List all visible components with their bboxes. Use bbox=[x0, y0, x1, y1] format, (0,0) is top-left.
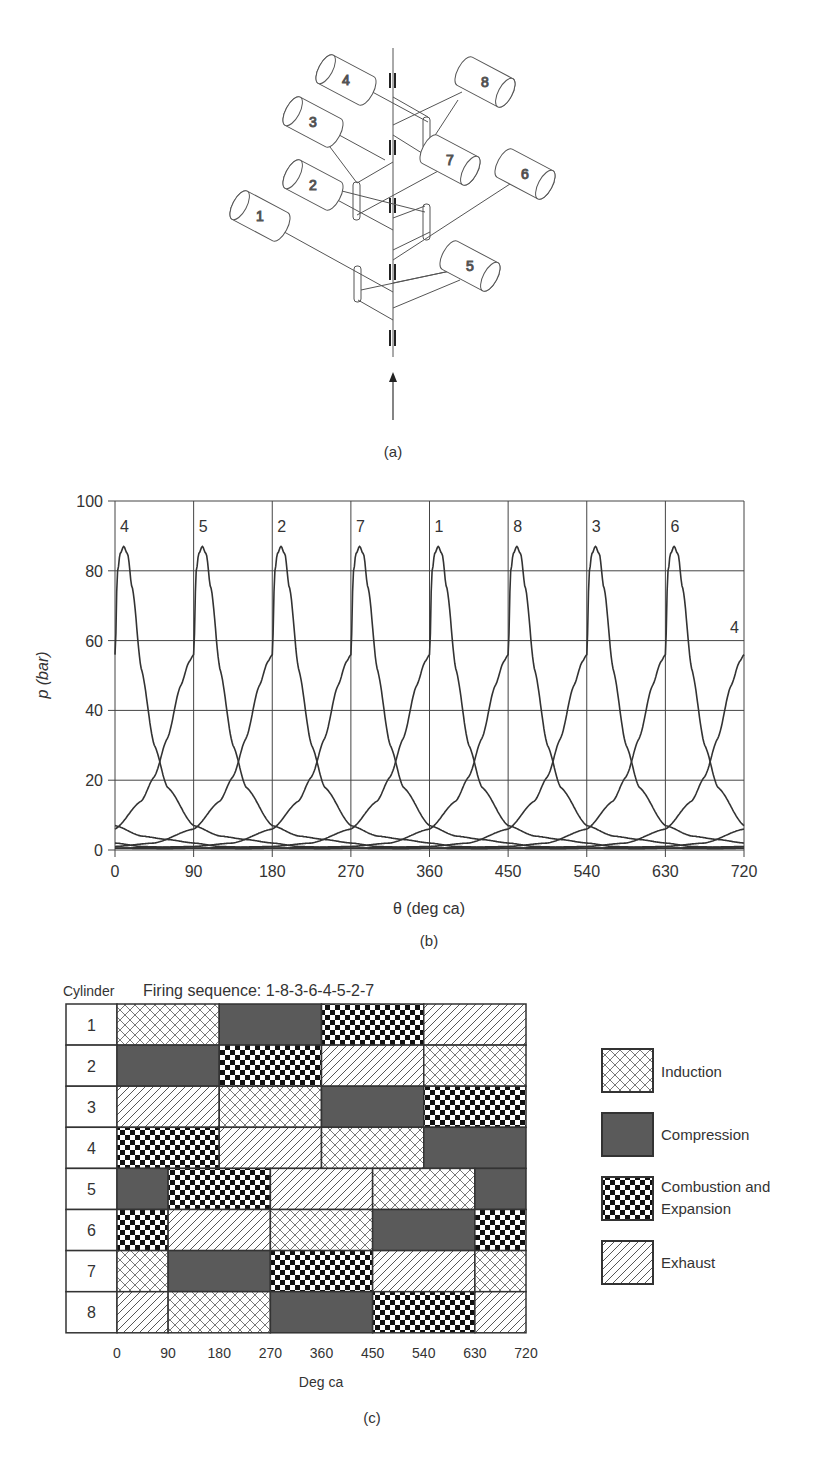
stroke-segment-combustion bbox=[219, 1045, 321, 1086]
cylinder-2: 2 bbox=[279, 157, 347, 213]
cylinder-7: 7 bbox=[416, 132, 484, 188]
legend-label: Induction bbox=[661, 1063, 722, 1080]
x-tick-label: 360 bbox=[416, 863, 443, 880]
table-row: 6 bbox=[66, 1210, 526, 1251]
x-tick-label: 540 bbox=[573, 863, 600, 880]
cylinder-column-header: Cylinder bbox=[63, 983, 115, 999]
table-row: 7 bbox=[66, 1251, 526, 1292]
cylinder-number: 2 bbox=[87, 1058, 96, 1075]
cylinder-number: 6 bbox=[521, 166, 529, 182]
legend-item-induction: Induction bbox=[602, 1049, 722, 1092]
peak-label: 3 bbox=[592, 518, 601, 535]
x-tick-label: 180 bbox=[208, 1345, 232, 1361]
x-tick-label: 90 bbox=[160, 1345, 176, 1361]
x-tick-label: 450 bbox=[495, 863, 522, 880]
stroke-segment-combustion bbox=[117, 1210, 168, 1251]
arrow-head-icon bbox=[389, 372, 397, 382]
stroke-segment-exhaust bbox=[168, 1210, 270, 1251]
cylinder-number: 3 bbox=[87, 1099, 96, 1116]
cylinder-6: 6 bbox=[491, 146, 559, 202]
cylinder-number: 2 bbox=[309, 177, 317, 193]
peak-label: 7 bbox=[356, 518, 365, 535]
x-tick-label: 540 bbox=[412, 1345, 436, 1361]
table-row: 5 bbox=[66, 1168, 526, 1209]
cylinder-number: 1 bbox=[87, 1017, 96, 1034]
cylinder-number: 1 bbox=[256, 208, 264, 224]
crankshaft-diagram: 12345678 bbox=[226, 48, 559, 420]
table-x-ticks: 090180270360450540630720 bbox=[113, 1345, 538, 1361]
stroke-segment-exhaust bbox=[475, 1292, 526, 1333]
stroke-segment-combustion bbox=[373, 1292, 475, 1333]
y-tick-label: 20 bbox=[85, 772, 103, 789]
figure: 12345678 (a) 020406080100 09018027036045… bbox=[0, 0, 832, 1459]
stroke-segment-combustion bbox=[424, 1086, 526, 1127]
x-axis-ticks: 090180270360450540630720 bbox=[111, 863, 758, 880]
cylinder-4: 4 bbox=[312, 52, 380, 108]
legend-item-combustion: Combustion and Expansion bbox=[602, 1177, 770, 1220]
stroke-segment-compression bbox=[322, 1086, 424, 1127]
table-row: 4 bbox=[66, 1127, 526, 1168]
x-tick-label: 630 bbox=[652, 863, 679, 880]
stroke-segment-compression bbox=[168, 1251, 270, 1292]
drive-arrow bbox=[389, 372, 397, 420]
legend-label: Compression bbox=[661, 1126, 749, 1143]
panel-c-label: (c) bbox=[363, 1409, 381, 1426]
cylinder-number: 3 bbox=[309, 114, 317, 130]
stroke-segment-induction bbox=[219, 1086, 321, 1127]
cylinder-number: 5 bbox=[466, 258, 474, 274]
stroke-segment-induction bbox=[424, 1045, 526, 1086]
x-axis-label: θ (deg ca) bbox=[393, 900, 465, 917]
peak-label: 4 bbox=[120, 518, 129, 535]
cylinder-number: 7 bbox=[446, 152, 454, 168]
x-tick-label: 720 bbox=[514, 1345, 538, 1361]
peak-label: 2 bbox=[277, 518, 286, 535]
chart-grid bbox=[108, 501, 744, 857]
x-tick-label: 180 bbox=[259, 863, 286, 880]
legend-label: Expansion bbox=[661, 1200, 731, 1217]
cylinder-number: 8 bbox=[481, 74, 489, 90]
stroke-segment-induction bbox=[117, 1004, 219, 1045]
stroke-segment-compression bbox=[219, 1004, 321, 1045]
compression-swatch-icon bbox=[602, 1113, 653, 1156]
peak-label: 5 bbox=[199, 518, 208, 535]
y-tick-label: 60 bbox=[85, 633, 103, 650]
peak-label: 6 bbox=[670, 518, 679, 535]
cylinder-number: 7 bbox=[87, 1263, 96, 1280]
stroke-segment-compression bbox=[117, 1045, 219, 1086]
cylinder-number: 5 bbox=[87, 1181, 96, 1198]
cylinder-number: 6 bbox=[87, 1222, 96, 1239]
stroke-segment-exhaust bbox=[424, 1004, 526, 1045]
cylinder-number: 4 bbox=[342, 72, 350, 88]
stroke-segment-induction bbox=[373, 1168, 475, 1209]
stroke-segment-compression bbox=[373, 1210, 475, 1251]
legend-item-compression: Compression bbox=[602, 1113, 749, 1156]
x-tick-label: 0 bbox=[113, 1345, 121, 1361]
peak-label: 4 bbox=[730, 619, 739, 636]
stroke-segment-exhaust bbox=[117, 1292, 168, 1333]
peak-label: 8 bbox=[513, 518, 522, 535]
y-tick-label: 100 bbox=[76, 493, 103, 510]
legend-label: Exhaust bbox=[661, 1254, 716, 1271]
table-row: 1 bbox=[66, 1004, 526, 1045]
y-axis-ticks: 020406080100 bbox=[76, 493, 103, 859]
table-row: 8 bbox=[66, 1292, 526, 1333]
y-axis-label: p (bar) bbox=[34, 651, 51, 699]
cylinder-8: 8 bbox=[451, 54, 519, 110]
x-tick-label: 270 bbox=[259, 1345, 283, 1361]
stroke-segment-exhaust bbox=[322, 1045, 424, 1086]
stroke-segment-combustion bbox=[168, 1168, 270, 1209]
stroke-segment-induction bbox=[322, 1127, 424, 1168]
stroke-segment-induction bbox=[168, 1292, 270, 1333]
stroke-segment-compression bbox=[475, 1168, 526, 1209]
legend-label: Combustion and bbox=[661, 1178, 770, 1195]
x-tick-label: 270 bbox=[338, 863, 365, 880]
table-row: 2 bbox=[66, 1045, 526, 1086]
stroke-segment-combustion bbox=[475, 1210, 526, 1251]
cylinder-number: 4 bbox=[87, 1140, 96, 1157]
stroke-segment-compression bbox=[424, 1127, 526, 1168]
x-tick-label: 630 bbox=[463, 1345, 487, 1361]
stroke-segment-exhaust bbox=[270, 1168, 372, 1209]
firing-sequence-table: Cylinder Firing sequence: 1-8-3-6-4-5-2-… bbox=[63, 982, 770, 1426]
combustion-swatch-icon bbox=[602, 1177, 653, 1220]
table-x-axis-label: Deg ca bbox=[299, 1374, 344, 1390]
